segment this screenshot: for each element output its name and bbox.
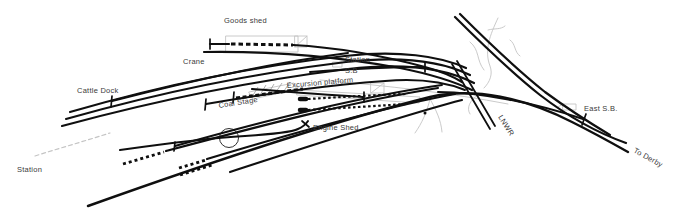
road-fork-left	[415, 99, 430, 133]
fan-line-2	[230, 100, 462, 172]
label-coal-stage: Coal Stage	[218, 95, 259, 110]
stream-2	[470, 42, 484, 70]
label-station-west: Station	[17, 165, 42, 174]
label-cattle-dock: Cattle Dock	[77, 86, 119, 95]
signal-box-symbol	[371, 83, 384, 93]
road-fork-right	[430, 99, 442, 132]
fan-line-5-end	[174, 142, 175, 151]
fan-line-3b-dashed	[180, 165, 212, 175]
label-to-derby: To Derby	[632, 146, 664, 169]
label-east-sb: East S.B.	[584, 104, 618, 113]
goods-shed-siding-dashed	[231, 44, 293, 45]
stream-twig-3	[510, 40, 520, 56]
stream-twig-1	[488, 26, 505, 30]
fan-line-4-dashed	[123, 152, 164, 164]
label-crane: Crane	[183, 57, 205, 66]
mid-siding-buffer	[205, 99, 206, 110]
label-engine-shed: Engine Shed	[313, 123, 359, 132]
railway-track-plan: Goods shedCraneCattle DockStationS.BExcu…	[0, 0, 678, 210]
label-goods-shed: Goods shed	[224, 16, 267, 25]
faded-road-dashed	[35, 133, 110, 156]
survey-dot	[424, 112, 427, 115]
label-lnwr: LNWR	[496, 113, 516, 138]
label-station-sb-line2: S.B	[345, 66, 358, 75]
track-diagram-svg: Goods shedCraneCattle DockStationS.BExcu…	[0, 0, 678, 210]
cattle-siding-buffer	[111, 96, 112, 107]
label-station-sb-line1: Station	[345, 55, 370, 64]
branch-northeast-1	[455, 17, 626, 143]
